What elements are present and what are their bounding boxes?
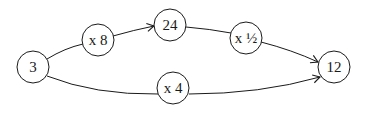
diagram-canvas: 3 x 8 24 x ½ 12 x 4 bbox=[0, 0, 383, 132]
edge-24-to-xhalf bbox=[186, 27, 231, 33]
node-24-label: 24 bbox=[163, 17, 179, 33]
node-x-half: x ½ bbox=[230, 22, 262, 54]
node-x4: x 4 bbox=[157, 72, 189, 104]
node-3-label: 3 bbox=[29, 59, 37, 75]
node-12-label: 12 bbox=[327, 59, 342, 75]
node-12: 12 bbox=[318, 51, 350, 83]
edge-x4-to-12-arrow bbox=[189, 77, 320, 94]
multiplication-flow-diagram: 3 x 8 24 x ½ 12 x 4 bbox=[0, 0, 383, 132]
node-x8-label: x 8 bbox=[89, 32, 108, 48]
edge-3-to-x8 bbox=[47, 44, 83, 59]
node-x8: x 8 bbox=[82, 24, 114, 56]
node-x4-label: x 4 bbox=[164, 80, 183, 96]
node-x-half-label: x ½ bbox=[235, 30, 258, 46]
edge-3-to-x4 bbox=[47, 76, 158, 94]
node-3: 3 bbox=[17, 51, 49, 83]
edge-xhalf-to-12-arrow bbox=[261, 42, 318, 62]
node-24: 24 bbox=[154, 9, 186, 41]
edge-x8-to-24-arrow bbox=[113, 26, 154, 36]
